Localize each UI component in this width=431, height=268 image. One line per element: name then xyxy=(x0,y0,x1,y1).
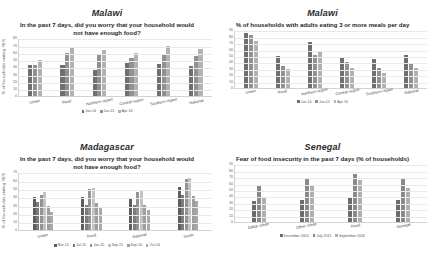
y-tick-label: 30 xyxy=(229,202,233,206)
bar-group xyxy=(276,31,290,88)
legend-item: Apr-16 xyxy=(118,109,132,113)
legend-label: Jun-15 xyxy=(319,100,330,104)
grid-line xyxy=(235,44,427,45)
bar-group xyxy=(300,165,314,222)
y-tick-label: 20 xyxy=(229,75,233,79)
legend-label: July 2015 xyxy=(316,234,331,238)
legend-item: Apr-16 xyxy=(334,100,348,104)
grid-line xyxy=(235,185,427,186)
plot-bars xyxy=(18,173,212,231)
x-axis-categories: UrbanRuralNationalSouth xyxy=(18,234,212,238)
grid-line xyxy=(235,57,427,58)
legend-swatch-icon xyxy=(297,100,300,103)
grid-line xyxy=(19,173,212,174)
y-tick-label: 50 xyxy=(229,55,233,59)
y-tick-label: 0 xyxy=(231,221,233,225)
legend-item: July 2015 xyxy=(313,234,332,238)
grid-line xyxy=(235,51,427,52)
grid-line xyxy=(235,191,427,192)
grid-line xyxy=(19,198,212,199)
y-tick-label: 60 xyxy=(13,52,17,56)
grid-line xyxy=(235,31,427,32)
grid-line xyxy=(19,207,212,208)
legend-label: Jun-14 xyxy=(301,100,312,104)
bar xyxy=(244,33,248,88)
chart-subtitle: In the past 7 days, did you worry that y… xyxy=(2,155,212,171)
bar-group xyxy=(252,165,266,222)
grid-line xyxy=(19,182,212,183)
grid-line xyxy=(19,90,212,91)
grid-line xyxy=(19,39,212,40)
grid-line xyxy=(235,172,427,173)
grid-line xyxy=(235,210,427,211)
legend-label: Sep-15 xyxy=(112,243,123,247)
legend-item: Mar-14 xyxy=(54,243,69,247)
bar xyxy=(382,73,386,88)
y-axis-ticks: 010203040506070 xyxy=(9,173,18,231)
legend-swatch-icon xyxy=(315,100,318,103)
grid-line xyxy=(235,197,427,198)
bar xyxy=(345,62,349,88)
figure-canvas: Malawi In the past 7 days, did you worry… xyxy=(0,0,431,268)
legend-label: December 2014 xyxy=(284,234,309,238)
grid-line xyxy=(235,204,427,205)
bar xyxy=(99,207,102,230)
y-tick-label: 40 xyxy=(229,62,233,66)
legend-item: Sep-15 xyxy=(108,243,123,247)
chart-legend: December 2014July 2015September 2016 xyxy=(218,234,427,238)
legend-swatch-icon xyxy=(280,234,283,237)
grid-line xyxy=(19,76,212,77)
y-tick-label: 50 xyxy=(13,188,17,192)
y-tick-label: 90 xyxy=(229,163,233,167)
grid-line xyxy=(235,178,427,179)
y-tick-label: 70 xyxy=(229,176,233,180)
legend-swatch-icon xyxy=(90,244,93,247)
grid-line xyxy=(19,215,212,216)
bar-group xyxy=(396,165,410,222)
bar xyxy=(286,69,290,88)
y-tick-label: 30 xyxy=(13,74,17,78)
plot-area: 0102030405060708090 xyxy=(218,31,427,89)
chart-subtitle: In the past 7 days, did you worry that y… xyxy=(2,21,212,37)
grid-line xyxy=(19,68,212,69)
bar-group xyxy=(348,165,362,222)
legend-swatch-icon xyxy=(313,234,316,237)
y-axis-ticks: 0102030405060708090 xyxy=(225,165,234,223)
legend-label: Apr-16 xyxy=(122,109,133,113)
y-tick-label: 60 xyxy=(13,180,17,184)
legend-swatch-icon xyxy=(127,244,130,247)
legend-item: December 2014 xyxy=(280,234,309,238)
legend-swatch-icon xyxy=(335,234,338,237)
y-tick-label: 10 xyxy=(13,88,17,92)
bar xyxy=(33,65,37,96)
y-tick-label: 10 xyxy=(229,215,233,219)
y-tick-label: 30 xyxy=(229,68,233,72)
bar xyxy=(308,42,312,88)
chart-legend: Jun-14Jun-15Apr-16 xyxy=(218,100,427,104)
legend-label: Jun-14 xyxy=(85,109,96,113)
y-tick-label: 20 xyxy=(13,213,17,217)
legend-label: Sep-16 xyxy=(131,243,142,247)
bar-group xyxy=(404,31,418,88)
y-axis-ticks: 01020304050607080 xyxy=(9,39,18,97)
grid-line xyxy=(19,83,212,84)
legend-item: Jun-14 xyxy=(297,100,311,104)
y-tick-label: 60 xyxy=(229,183,233,187)
bar-group xyxy=(372,31,386,88)
x-axis-categories: Dakar urbanOther urbanRuralSenegal xyxy=(234,224,427,228)
grid-line xyxy=(19,61,212,62)
y-tick-label: 50 xyxy=(229,189,233,193)
y-tick-label: 0 xyxy=(15,230,17,234)
y-tick-label: 10 xyxy=(229,81,233,85)
legend-item: Oct-16 xyxy=(146,243,160,247)
legend-swatch-icon xyxy=(118,110,121,113)
x-axis-categories: UrbanRuralNorthern regionCentral regionS… xyxy=(234,90,427,94)
y-tick-label: 40 xyxy=(229,196,233,200)
plot-area: % of households stating YES 010203040506… xyxy=(2,173,212,232)
grid-line xyxy=(235,83,427,84)
legend-label: Mar-14 xyxy=(58,243,69,247)
chart-subtitle: % of households with adults eating 3 or … xyxy=(218,21,427,29)
chart-legend: Jun-14Jun-15Apr-16 xyxy=(2,109,212,113)
grid-line xyxy=(235,165,427,166)
legend-item: Jun-14 xyxy=(82,109,96,113)
